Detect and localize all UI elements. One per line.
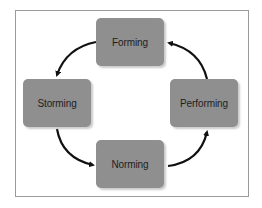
arrow-norming-to-performing (168, 132, 207, 166)
stage-label: Performing (180, 98, 228, 109)
arrow-performing-to-forming (169, 43, 207, 79)
stage-forming: Forming (96, 18, 164, 66)
arrow-storming-to-norming (57, 129, 93, 165)
stage-label: Storming (37, 98, 76, 109)
stage-label: Norming (111, 159, 148, 170)
stage-performing: Performing (170, 79, 238, 127)
stage-storming: Storming (23, 79, 91, 127)
stage-label: Forming (112, 37, 148, 48)
stage-norming: Norming (96, 140, 164, 188)
arrow-forming-to-storming (57, 42, 96, 75)
